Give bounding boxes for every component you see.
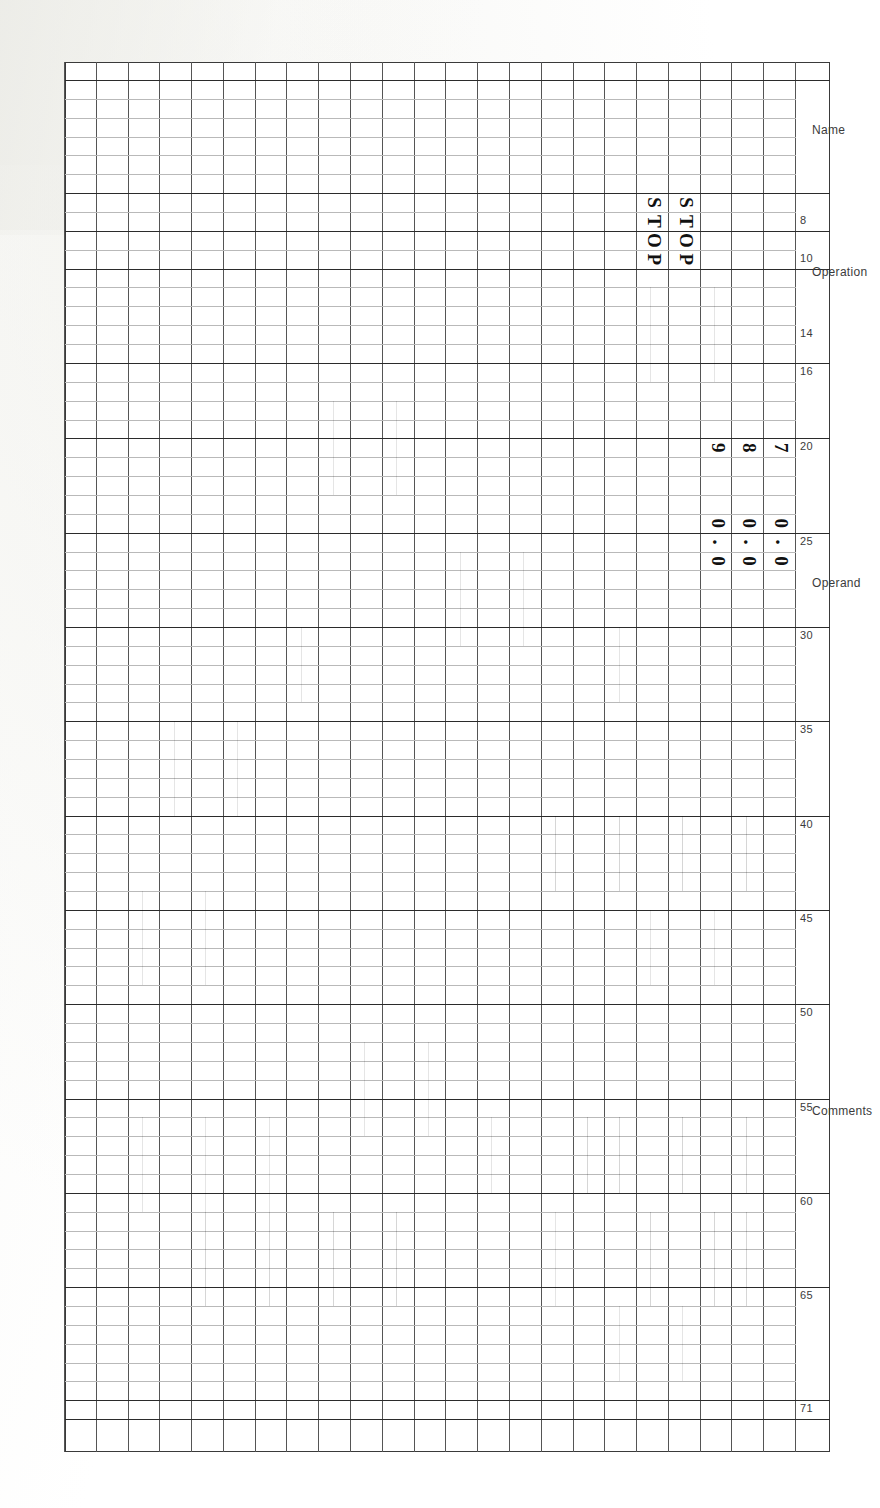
bleed-through-mark bbox=[619, 1306, 620, 1381]
form-column-rule bbox=[65, 118, 796, 119]
bleed-through-mark bbox=[333, 1212, 334, 1306]
form-column-rule bbox=[65, 1155, 796, 1156]
bleed-through-mark bbox=[682, 1117, 683, 1192]
form-column-rule bbox=[65, 155, 796, 156]
bleed-through-mark bbox=[174, 721, 175, 815]
form-column-rule-major bbox=[65, 363, 830, 364]
form-line-rule bbox=[255, 62, 256, 1452]
form-line-rule bbox=[509, 62, 510, 1452]
column-number-label: 25 bbox=[800, 535, 813, 547]
form-column-rule bbox=[65, 966, 796, 967]
form-column-rule bbox=[65, 306, 796, 307]
form-entry-character: 0 bbox=[772, 552, 791, 571]
form-column-rule bbox=[65, 1231, 796, 1232]
column-number-label: 60 bbox=[800, 1195, 813, 1207]
column-number-label: 8 bbox=[800, 214, 807, 226]
form-line-rule bbox=[159, 62, 160, 1452]
form-column-rule bbox=[65, 608, 796, 609]
column-number-label: 45 bbox=[800, 912, 813, 924]
form-line-rule bbox=[350, 62, 351, 1452]
form-entry-character: P bbox=[677, 250, 696, 269]
bleed-through-mark bbox=[619, 627, 620, 702]
form-column-rule-major bbox=[65, 816, 830, 817]
form-column-rule bbox=[65, 1174, 796, 1175]
form-line-rule bbox=[64, 62, 65, 1452]
bleed-through-mark bbox=[364, 1042, 365, 1136]
bleed-through-mark bbox=[269, 1117, 270, 1211]
bleed-through-mark bbox=[333, 401, 334, 495]
form-column-rule bbox=[65, 646, 796, 647]
bleed-through-mark bbox=[428, 1042, 429, 1136]
form-column-rule bbox=[65, 948, 796, 949]
form-column-rule bbox=[65, 985, 796, 986]
section-label: Name bbox=[812, 123, 845, 137]
form-entry-character: . bbox=[772, 533, 794, 552]
coding-form-sheet: NameOperationOperandComments 81014162025… bbox=[65, 62, 830, 1452]
form-column-rule bbox=[65, 287, 796, 288]
bleed-through-mark bbox=[396, 1212, 397, 1306]
form-entry-character: 0 bbox=[740, 552, 759, 571]
section-label: Operation bbox=[812, 265, 867, 279]
column-number-label: 20 bbox=[800, 440, 813, 452]
bleed-through-mark bbox=[619, 1117, 620, 1192]
form-column-rule bbox=[65, 137, 796, 138]
column-number-label: 35 bbox=[800, 723, 813, 735]
form-column-rule bbox=[65, 514, 796, 515]
form-line-rule bbox=[414, 62, 415, 1452]
form-line-rule bbox=[191, 62, 192, 1452]
form-column-rule bbox=[65, 476, 796, 477]
column-number-label: 30 bbox=[800, 629, 813, 641]
form-entry-character: 0 bbox=[772, 514, 791, 533]
form-column-rule bbox=[65, 1080, 796, 1081]
form-line-rule bbox=[573, 62, 574, 1452]
form-column-rule bbox=[65, 1042, 796, 1043]
form-column-rule bbox=[65, 891, 796, 892]
form-column-rule bbox=[65, 1381, 796, 1382]
bleed-through-mark bbox=[714, 910, 715, 985]
form-entry-character: 9 bbox=[709, 438, 728, 457]
bleed-through-mark bbox=[237, 721, 238, 815]
form-column-rule bbox=[65, 1212, 796, 1213]
bleed-through-mark bbox=[205, 1212, 206, 1306]
form-column-rule bbox=[65, 702, 796, 703]
section-label: Operand bbox=[812, 576, 861, 590]
bleed-through-mark bbox=[619, 816, 620, 891]
bleed-through-mark bbox=[650, 1212, 651, 1306]
column-number-label: 50 bbox=[800, 1006, 813, 1018]
form-column-rule bbox=[65, 1344, 796, 1345]
bleed-through-mark bbox=[650, 287, 651, 381]
form-entry-character: 0 bbox=[709, 552, 728, 571]
form-column-rule bbox=[65, 589, 796, 590]
column-number-label: 71 bbox=[800, 1402, 813, 1414]
bleed-through-mark bbox=[682, 1306, 683, 1381]
form-entry-character: T bbox=[645, 212, 664, 231]
form-column-rule bbox=[65, 1268, 796, 1269]
bleed-through-mark bbox=[523, 552, 524, 646]
form-line-rule bbox=[96, 62, 97, 1452]
form-line-rule bbox=[636, 62, 637, 1452]
bleed-through-mark bbox=[682, 816, 683, 891]
column-number-label: 16 bbox=[800, 365, 813, 377]
form-line-rule bbox=[128, 62, 129, 1452]
bleed-through-mark bbox=[746, 1117, 747, 1192]
form-line-rule bbox=[445, 62, 446, 1452]
form-line-rule bbox=[382, 62, 383, 1452]
form-column-rule bbox=[65, 457, 796, 458]
form-column-rule bbox=[65, 1061, 796, 1062]
form-entry-character: O bbox=[645, 231, 664, 250]
form-entry-character: . bbox=[709, 533, 731, 552]
form-column-rule bbox=[65, 420, 796, 421]
bleed-through-mark bbox=[460, 552, 461, 646]
form-line-rule bbox=[286, 62, 287, 1452]
form-column-rule bbox=[65, 929, 796, 930]
form-column-rule bbox=[65, 570, 796, 571]
form-column-rule bbox=[65, 1325, 796, 1326]
form-entry-character: 7 bbox=[772, 438, 791, 457]
column-number-label: 10 bbox=[800, 252, 813, 264]
form-entry-character: P bbox=[645, 250, 664, 269]
form-column-rule bbox=[65, 684, 796, 685]
form-line-rule bbox=[604, 62, 605, 1452]
bleed-through-mark bbox=[555, 816, 556, 891]
form-column-rule bbox=[65, 853, 796, 854]
form-line-rule bbox=[477, 62, 478, 1452]
